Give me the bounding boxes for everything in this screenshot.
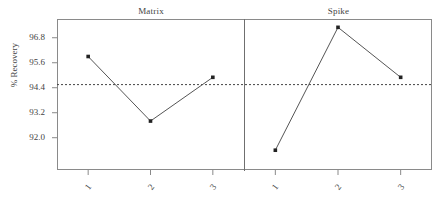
y-tick-marks [52,38,57,138]
chart-figure: Matrix Spike % Recovery 92.093.294.495.6… [0,0,445,204]
y-tick-label: 92.0 [11,132,45,142]
chart-canvas [0,0,445,204]
x-tick-marks [88,170,401,175]
y-tick-label: 93.2 [11,107,45,117]
data-series [86,26,402,152]
y-tick-label: 95.6 [11,57,45,67]
y-tick-label: 96.8 [11,32,45,42]
y-tick-label: 94.4 [11,82,45,92]
